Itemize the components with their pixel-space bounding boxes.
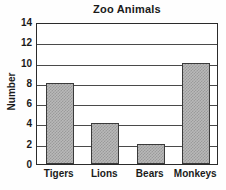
- y-tick-label: 2: [8, 140, 32, 150]
- gridline: [37, 44, 217, 45]
- y-tick-label: 12: [8, 38, 32, 48]
- bar-tigers: [46, 83, 74, 164]
- y-tick-label: 6: [8, 99, 32, 109]
- plot-area: [36, 23, 218, 165]
- chart-title: Zoo Animals: [36, 2, 218, 16]
- x-tick-label: Monkeys: [155, 168, 226, 180]
- bar-monkeys: [182, 63, 210, 164]
- y-axis-title: Number: [6, 62, 17, 122]
- bar-chart: Zoo Animals Number 02468101214 TigersLio…: [0, 0, 226, 190]
- bar-lions: [91, 123, 119, 164]
- y-tick-label: 4: [8, 119, 32, 129]
- bar-bears: [137, 144, 165, 164]
- y-tick-label: 10: [8, 59, 32, 69]
- y-tick-label: 8: [8, 79, 32, 89]
- y-tick-label: 14: [8, 18, 32, 28]
